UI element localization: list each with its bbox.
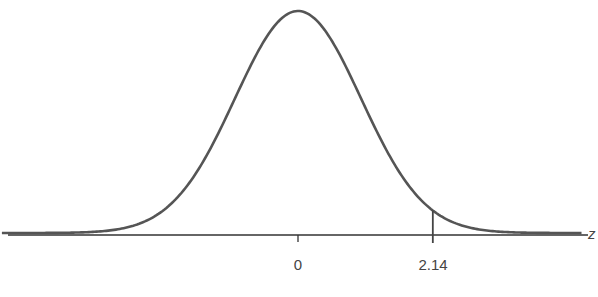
axis-variable-z: z xyxy=(588,225,596,242)
normal-curve-chart xyxy=(0,0,598,297)
normal-curve xyxy=(2,11,582,233)
tick-label-2-14: 2.14 xyxy=(418,256,447,273)
tick-label-0: 0 xyxy=(294,256,302,273)
